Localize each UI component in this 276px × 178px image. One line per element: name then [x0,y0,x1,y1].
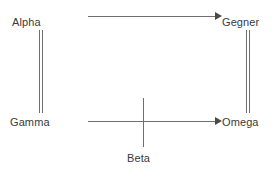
node-label-gamma: Gamma [10,116,50,129]
diagram-canvas: Alpha Gegner Gamma Omega Beta [0,0,276,178]
node-label-alpha: Alpha [12,16,41,29]
arrowhead-icon [215,12,222,20]
node-label-omega: Omega [222,116,259,129]
edge-gamma-to-omega-arrow [88,116,222,127]
arrow-shaft [88,121,216,122]
edge-gegner-omega-double-line [246,30,250,113]
arrow-shaft [88,16,216,17]
node-label-gegner: Gegner [222,16,259,29]
edge-alpha-to-gegner-arrow [88,11,222,22]
edge-alpha-gamma-double-line [39,30,43,113]
node-label-beta: Beta [127,152,150,165]
arrowhead-icon [215,117,222,125]
